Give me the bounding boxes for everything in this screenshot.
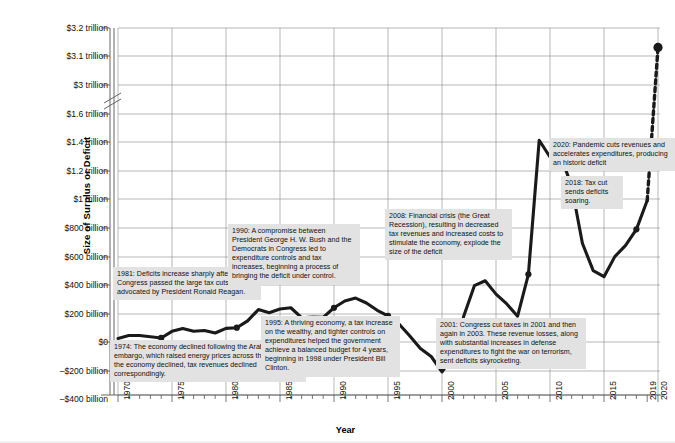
annotation-2001: 2001: Congress cut taxes in 2001 and the… [436, 318, 586, 369]
annotation-2020: 2020: Pandemic cuts revenues and acceler… [549, 138, 675, 171]
x-tick-2015: 2015 [608, 381, 618, 400]
x-tick-2005: 2005 [500, 381, 510, 400]
x-tick-1985: 1985 [284, 381, 294, 400]
x-tick-marks [118, 395, 658, 402]
y-tick-marks [101, 28, 110, 395]
axis-break-marks [104, 93, 121, 109]
annotation-2008: 2008: Financial crisis (the Great Recess… [385, 209, 512, 260]
x-tick-2000: 2000 [446, 381, 456, 400]
x-tick-1980: 1980 [230, 381, 240, 400]
series-line-dashed [647, 47, 658, 200]
x-axis-title: Year [8, 425, 675, 435]
x-tick-1990: 1990 [338, 381, 348, 400]
x-tick-1995: 1995 [392, 381, 402, 400]
x-tick-2010: 2010 [554, 381, 564, 400]
x-tick-2019: 2019 [648, 381, 658, 400]
x-tick-1975: 1975 [176, 381, 186, 400]
annotation-1990: 1990: A compromise between President Geo… [228, 224, 360, 285]
deficit-surplus-chart: Size of Surplus or Deficit $3.2 trillion… [0, 0, 675, 443]
x-tick-1970: 1970 [122, 381, 132, 400]
annotation-2018: 2018: Tax cut sends deficits soaring. [561, 176, 623, 209]
annotation-1995: 1995: A thriving economy, a tax increase… [261, 316, 400, 377]
x-tick-2020: 2020 [659, 381, 669, 400]
